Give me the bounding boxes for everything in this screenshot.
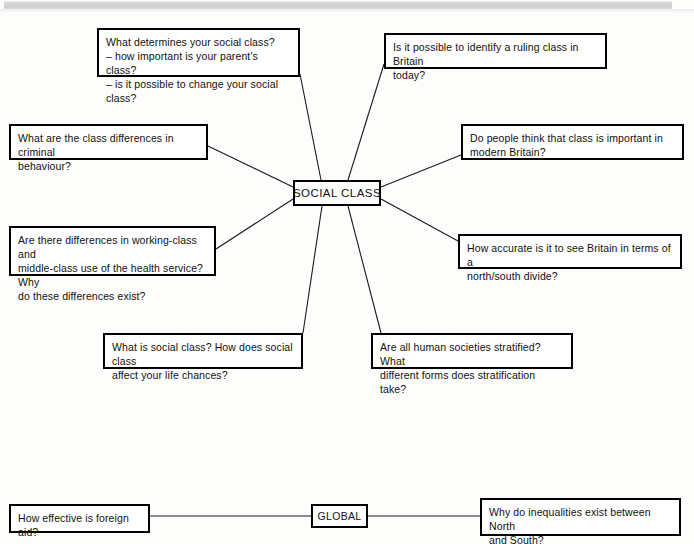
- connector-social-class-to-health-service: [216, 199, 293, 249]
- node-health-service-differences[interactable]: Are there differences in working-class a…: [9, 226, 216, 276]
- connector-social-class-to-life-chances: [303, 206, 322, 333]
- mind-map-canvas: SOCIAL CLASS What determines your social…: [0, 0, 694, 544]
- center-node-global-label: GLOBAL: [318, 509, 362, 523]
- connector-social-class-to-determines: [300, 74, 321, 180]
- node-class-important-modern-britain[interactable]: Do people think that class is important …: [461, 124, 684, 160]
- node-effectiveness-foreign-aid[interactable]: How effective is foreign aid?: [9, 504, 150, 533]
- node-what-determines-your-social-class[interactable]: What determines your social class? – how…: [97, 28, 300, 77]
- center-node-social-class[interactable]: SOCIAL CLASS: [293, 180, 381, 206]
- connector-social-class-to-ruling-class: [348, 64, 384, 180]
- node-north-south-divide[interactable]: How accurate is it to see Britain in ter…: [458, 234, 682, 269]
- center-node-global[interactable]: GLOBAL: [311, 504, 368, 528]
- node-social-class-life-chances[interactable]: What is social class? How does social cl…: [103, 333, 303, 369]
- connector-social-class-to-north-south-divide: [381, 199, 458, 241]
- node-inequalities-north-south[interactable]: Why do inequalities exist between North …: [480, 498, 681, 536]
- connector-social-class-to-stratification: [348, 206, 381, 333]
- connector-social-class-to-class-important: [381, 155, 461, 187]
- center-node-label: SOCIAL CLASS: [293, 186, 381, 200]
- node-class-differences-criminal-behaviour[interactable]: What are the class differences in crimin…: [9, 124, 208, 160]
- connector-social-class-to-criminal-behaviour: [208, 146, 293, 187]
- node-ruling-class-in-britain[interactable]: Is it possible to identify a ruling clas…: [384, 33, 607, 69]
- node-societies-stratification[interactable]: Are all human societies stratified? What…: [371, 333, 573, 369]
